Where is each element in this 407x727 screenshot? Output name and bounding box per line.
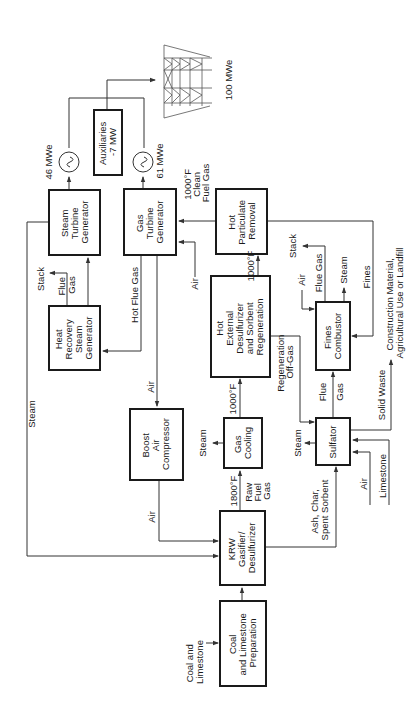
label-air-gasifier: Air <box>146 511 157 523</box>
label-sulfator-flue-gas-2: Gas <box>334 383 345 401</box>
label-sulfator-flue-gas: Flue <box>317 383 328 401</box>
generator-gas <box>133 152 153 172</box>
label-solid-waste: Solid Waste <box>376 370 387 420</box>
label-coal-limestone-in: Coal and Limestone <box>184 640 205 684</box>
label-gas-cooling-steam: Steam <box>197 429 208 457</box>
label-air-gt: Air <box>189 278 200 290</box>
label-limestone: Limestone <box>377 454 388 498</box>
label-raw-fuel-gas-desc: Raw Fuel Gas <box>243 480 272 502</box>
process-flow-diagram: Coal and Limestone Preparation KRW Gasif… <box>0 0 407 727</box>
label-fc-steam: Steam <box>338 256 349 284</box>
label-clean-fuel-gas: 1000°F Clean Fuel Gas <box>182 163 211 202</box>
label-fc-stack: Stack <box>287 234 298 258</box>
label-disposal: Construction Material, Agricultural Use … <box>384 248 405 359</box>
block-sulfator-label: Sulfator <box>327 426 338 459</box>
label-hrsg-stack: Stack <box>35 267 46 291</box>
label-steam-main: Steam <box>26 400 37 428</box>
label-sulfator-air: Air <box>358 478 369 490</box>
label-fines: Fines <box>361 265 372 288</box>
label-fc-flue-gas: Flue Gas <box>313 253 324 292</box>
transmission-tower-icon <box>164 45 212 118</box>
block-steam-turbine-label: Steam Turbine Generator <box>59 201 90 244</box>
label-net-output: 100 MWe <box>223 60 234 100</box>
label-air-to-compressor: Air <box>145 381 156 393</box>
label-raw-fuel-gas: 1800°F <box>228 475 239 506</box>
label-fc-air: Air <box>296 274 307 286</box>
label-regeneration-offgas: Regeneration Off-Gas <box>275 332 295 392</box>
label-1000f-a: 1000°F <box>227 383 238 414</box>
label-hot-flue-gas: Hot Flue Gas <box>129 267 140 323</box>
generator-steam <box>59 152 79 172</box>
label-ash-char: Ash, Char, Spent Sorbent <box>309 479 330 540</box>
label-st-output: 46 MWe <box>43 144 54 179</box>
label-1000f-b: 1000°F <box>245 250 256 281</box>
label-hrsg-flue-gas: Flue Gas <box>56 274 77 295</box>
label-gt-output: 61 MWe <box>154 143 165 178</box>
label-sulfator-steam: Steam <box>292 429 303 457</box>
